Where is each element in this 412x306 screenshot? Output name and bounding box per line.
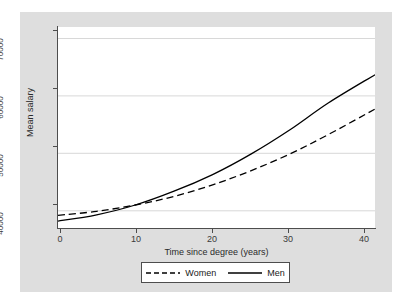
y-tick-label-40000: 40000 bbox=[0, 204, 5, 244]
x-axis-title: Time since degree (years) bbox=[58, 247, 375, 257]
plot-area bbox=[58, 27, 375, 228]
x-tick-label-10: 10 bbox=[131, 234, 141, 244]
y-tick-label-50000: 50000 bbox=[0, 146, 5, 186]
y-tick-40000 bbox=[53, 204, 57, 205]
y-tick-label-70000: 70000 bbox=[0, 30, 5, 70]
legend-label-women: Women bbox=[185, 268, 216, 278]
y-tick-50000 bbox=[53, 146, 57, 147]
plot-canvas bbox=[58, 27, 375, 228]
y-axis-line bbox=[57, 26, 58, 229]
gridlines bbox=[58, 39, 375, 211]
x-tick-20 bbox=[212, 229, 213, 233]
legend: Women Men bbox=[141, 262, 290, 283]
x-tick-label-40: 40 bbox=[359, 234, 369, 244]
chart-figure: 70000 60000 50000 40000 0 10 20 30 40 Ti… bbox=[0, 0, 412, 306]
series-line-women bbox=[58, 109, 375, 215]
x-tick-0 bbox=[60, 229, 61, 233]
x-axis-line bbox=[57, 228, 376, 229]
x-tick-label-30: 30 bbox=[283, 234, 293, 244]
y-tick-label-60000: 60000 bbox=[0, 88, 5, 128]
legend-item-men: Men bbox=[222, 268, 291, 278]
x-tick-30 bbox=[288, 229, 289, 233]
y-tick-60000 bbox=[53, 88, 57, 89]
x-tick-label-0: 0 bbox=[57, 234, 62, 244]
legend-label-men: Men bbox=[267, 268, 285, 278]
y-axis-title: Mean salary bbox=[25, 88, 35, 137]
x-tick-40 bbox=[364, 229, 365, 233]
legend-item-women: Women bbox=[140, 268, 222, 278]
legend-key-solid-icon bbox=[228, 270, 262, 276]
x-tick-label-20: 20 bbox=[207, 234, 217, 244]
legend-key-dashed-icon bbox=[146, 270, 180, 276]
series-line-men bbox=[58, 75, 375, 221]
x-tick-10 bbox=[136, 229, 137, 233]
y-tick-70000 bbox=[53, 30, 57, 31]
